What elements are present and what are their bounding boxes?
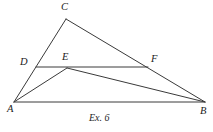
segment-EB: [67, 68, 205, 102]
vertex-label-b: B: [200, 106, 206, 117]
vertex-label-a: A: [7, 104, 13, 115]
segment-CB: [66, 19, 205, 102]
vertex-label-d: D: [20, 57, 28, 68]
geometry-figure: C E F D A B Ex. 6: [0, 0, 213, 132]
figure-caption: Ex. 6: [89, 113, 110, 123]
vertex-label-c: C: [61, 2, 68, 13]
vertex-label-f: F: [151, 54, 157, 65]
segment-AE: [14, 68, 67, 102]
vertex-label-e: E: [62, 52, 68, 63]
